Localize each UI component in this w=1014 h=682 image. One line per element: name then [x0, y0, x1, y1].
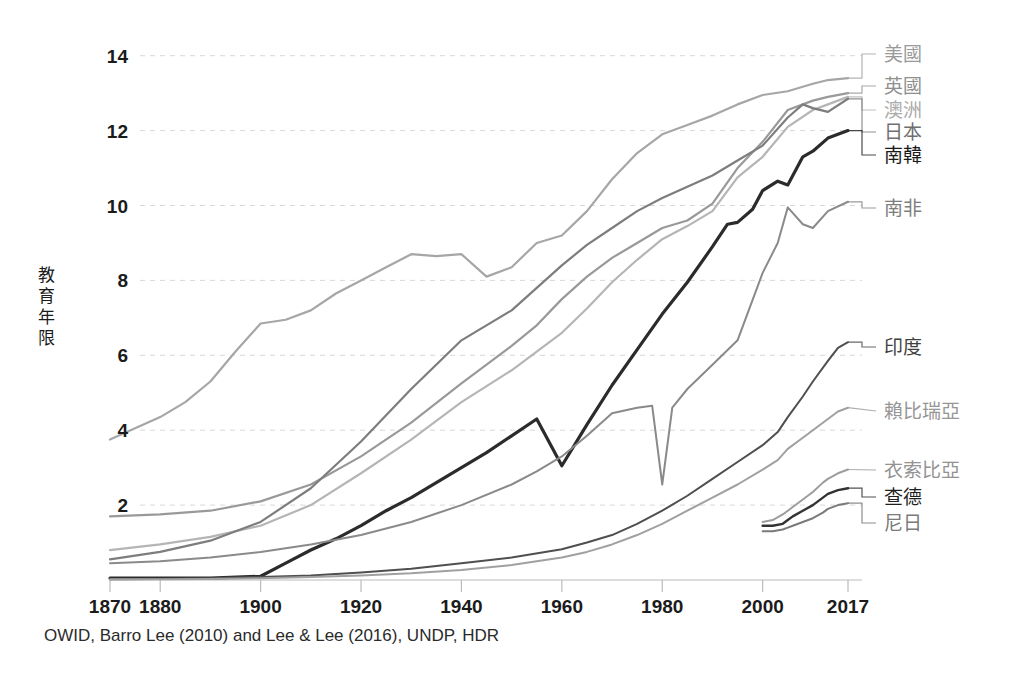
- y-tick-label-14: 14: [107, 46, 129, 67]
- series-line-0: [110, 78, 848, 439]
- data-lines-group: [110, 78, 848, 579]
- source-note: OWID, Barro Lee (2010) and Lee & Lee (20…: [44, 626, 499, 645]
- series-label-4: 南韓: [884, 145, 922, 166]
- series-label-7: 賴比瑞亞: [884, 401, 960, 422]
- series-label-6: 印度: [884, 337, 922, 358]
- leader-line-1: [848, 86, 876, 93]
- gridlines-group: [140, 56, 862, 505]
- series-label-3: 日本: [884, 122, 922, 143]
- chart-container: 2468101214 18701880190019201940196019802…: [0, 0, 1014, 682]
- x-tick-label-1980: 1980: [641, 596, 683, 617]
- series-line-1: [110, 93, 848, 516]
- x-tick-label-1880: 1880: [139, 596, 181, 617]
- x-tick-label-1920: 1920: [340, 596, 382, 617]
- leader-line-8: [848, 470, 876, 471]
- y-tick-label-6: 6: [117, 345, 128, 366]
- y-axis-title: 教育年限: [38, 266, 55, 348]
- x-tick-label-1940: 1940: [440, 596, 482, 617]
- series-line-7: [110, 408, 848, 580]
- series-label-8: 衣索比亞: [884, 460, 960, 481]
- leader-line-6: [848, 342, 876, 347]
- series-line-2: [110, 97, 848, 550]
- y-tick-label-12: 12: [107, 121, 128, 142]
- x-tick-label-2017: 2017: [827, 596, 869, 617]
- series-label-10: 尼日: [884, 513, 922, 534]
- series-line-8: [763, 470, 848, 522]
- leader-line-10: [848, 503, 876, 523]
- y-tick-label-2: 2: [117, 495, 128, 516]
- leader-line-0: [848, 54, 876, 78]
- label-leader-lines-group: [848, 54, 876, 523]
- x-tick-label-1960: 1960: [541, 596, 583, 617]
- series-label-5: 南非: [884, 198, 922, 219]
- series-label-9: 查德: [884, 487, 922, 508]
- series-line-6: [110, 342, 848, 579]
- leader-line-5: [848, 202, 876, 208]
- x-tick-label-1900: 1900: [239, 596, 281, 617]
- series-label-2: 澳洲: [884, 100, 922, 121]
- line-chart: 2468101214 18701880190019201940196019802…: [0, 0, 1014, 682]
- series-line-10: [763, 503, 848, 531]
- series-label-1: 英國: [884, 76, 922, 97]
- series-label-0: 美國: [884, 44, 922, 65]
- leader-line-4: [848, 131, 876, 155]
- leader-line-9: [848, 488, 876, 497]
- y-tick-label-10: 10: [107, 196, 128, 217]
- x-tick-label-2000: 2000: [742, 596, 784, 617]
- y-tick-labels-group: 2468101214: [107, 46, 129, 516]
- series-labels-group: 美國英國澳洲日本南韓南非印度賴比瑞亞衣索比亞查德尼日: [884, 44, 960, 534]
- x-tick-labels-group: 187018801900192019401960198020002017: [89, 596, 869, 617]
- series-line-4: [110, 131, 848, 579]
- x-tick-label-1870: 1870: [89, 596, 131, 617]
- leader-line-3: [848, 99, 876, 132]
- y-tick-label-8: 8: [117, 270, 128, 291]
- y-tick-label-4: 4: [117, 420, 128, 441]
- leader-line-7: [848, 408, 876, 411]
- x-tick-marks-group: [110, 580, 848, 592]
